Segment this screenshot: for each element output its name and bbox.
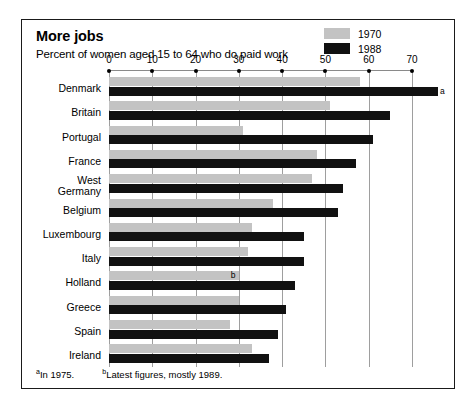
chart-footnotes: aIn 1975.bLatest figures, mostly 1989. bbox=[36, 369, 222, 380]
bar-ireland-1970 bbox=[109, 344, 252, 353]
x-tick-dot-30 bbox=[237, 69, 241, 73]
bar-ireland-1988 bbox=[109, 354, 269, 363]
bar-italy-1988 bbox=[109, 257, 304, 266]
category-label-holland: Holland bbox=[22, 277, 101, 288]
x-tick-dot-0 bbox=[107, 69, 111, 73]
x-tick-label-20: 20 bbox=[190, 54, 201, 65]
footnote-a-text: In 1975. bbox=[40, 369, 74, 380]
category-label-britain: Britain bbox=[22, 107, 101, 118]
annotation-marker-b: b bbox=[231, 271, 236, 280]
category-label-spain: Spain bbox=[22, 326, 101, 337]
footnote-b-text: Latest figures, mostly 1989. bbox=[106, 369, 222, 380]
plot-area: 010203040506070DenmarkBritainPortugalFra… bbox=[22, 20, 456, 390]
chart-figure: More jobs Percent of women aged 15 to 64… bbox=[21, 19, 455, 389]
bar-luxembourg-1988 bbox=[109, 232, 304, 241]
x-tick-dot-10 bbox=[150, 69, 154, 73]
gridline-70 bbox=[412, 70, 413, 367]
footnote-b: bLatest figures, mostly 1989. bbox=[102, 369, 222, 380]
category-label-luxembourg: Luxembourg bbox=[22, 229, 101, 240]
bar-holland-1970 bbox=[109, 271, 239, 280]
category-label-portugal: Portugal bbox=[22, 132, 101, 143]
bar-spain-1970 bbox=[109, 320, 230, 329]
bar-belgium-1988 bbox=[109, 208, 338, 217]
category-label-denmark: Denmark bbox=[22, 83, 101, 94]
bar-denmark-1988 bbox=[109, 87, 438, 96]
bar-west-germany-1988 bbox=[109, 184, 343, 193]
x-tick-dot-70 bbox=[410, 69, 414, 73]
bar-holland-1988 bbox=[109, 281, 295, 290]
category-label-west-germany: West Germany bbox=[22, 175, 101, 197]
bar-west-germany-1970 bbox=[109, 174, 312, 183]
category-label-france: France bbox=[22, 156, 101, 167]
category-label-italy: Italy bbox=[22, 253, 101, 264]
bar-spain-1988 bbox=[109, 330, 278, 339]
x-tick-label-30: 30 bbox=[233, 54, 244, 65]
x-tick-label-70: 70 bbox=[406, 54, 417, 65]
x-tick-label-40: 40 bbox=[277, 54, 288, 65]
x-tick-label-50: 50 bbox=[320, 54, 331, 65]
bar-britain-1970 bbox=[109, 101, 330, 110]
bar-portugal-1988 bbox=[109, 135, 373, 144]
bar-luxembourg-1970 bbox=[109, 223, 252, 232]
bar-denmark-1970 bbox=[109, 77, 360, 86]
x-tick-label-10: 10 bbox=[147, 54, 158, 65]
footnote-a: aIn 1975. bbox=[36, 369, 74, 380]
bar-belgium-1970 bbox=[109, 199, 273, 208]
bar-portugal-1970 bbox=[109, 126, 243, 135]
x-tick-dot-40 bbox=[280, 69, 284, 73]
category-label-belgium: Belgium bbox=[22, 205, 101, 216]
category-label-greece: Greece bbox=[22, 302, 101, 313]
x-tick-label-0: 0 bbox=[106, 54, 112, 65]
bar-italy-1970 bbox=[109, 247, 248, 256]
category-label-ireland: Ireland bbox=[22, 350, 101, 361]
x-tick-dot-20 bbox=[194, 69, 198, 73]
bar-france-1988 bbox=[109, 159, 356, 168]
annotation-marker-a: a bbox=[440, 87, 445, 96]
bar-greece-1970 bbox=[109, 296, 239, 305]
bar-greece-1988 bbox=[109, 305, 286, 314]
bar-britain-1988 bbox=[109, 111, 390, 120]
x-tick-label-60: 60 bbox=[363, 54, 374, 65]
bar-france-1970 bbox=[109, 150, 317, 159]
x-tick-dot-60 bbox=[367, 69, 371, 73]
